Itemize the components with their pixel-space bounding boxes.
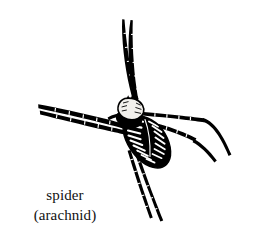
figure-caption: spider (arachnid) — [0, 186, 130, 226]
caption-common-name: spider — [0, 186, 130, 206]
caption-classification: (arachnid) — [0, 206, 130, 226]
spider-figure: spider (arachnid) — [0, 0, 254, 243]
